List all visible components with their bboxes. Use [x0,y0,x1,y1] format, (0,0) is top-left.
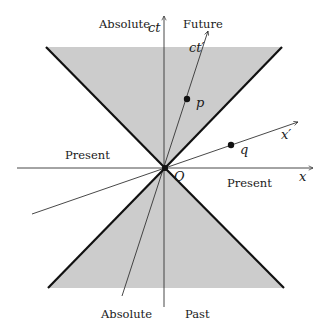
origin-point [162,165,168,171]
spacetime-diagram: ct ct′ x x′ O p q Absolute Future Presen… [0,0,327,336]
present-left-label: Present [65,148,110,162]
event-p-label: p [196,95,205,110]
event-q-dot [228,142,234,148]
event-q-label: q [240,142,248,157]
x-prime-axis-label: x′ [281,127,291,142]
absolute-past-label-2: Past [185,307,210,321]
x-axis-label: x [299,169,307,184]
absolute-future-label-2: Future [183,17,223,31]
origin-label: O [174,169,185,184]
absolute-future-label-1: Absolute [98,17,150,31]
event-p-dot [184,96,190,102]
absolute-past-label-1: Absolute [100,307,152,321]
present-right-label: Present [227,176,272,190]
ct-prime-axis-label: ct′ [189,40,205,55]
